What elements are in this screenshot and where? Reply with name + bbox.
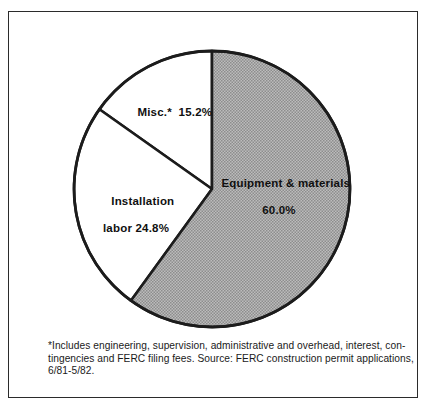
pie-label-equipment-materials: Equipment & materials 60.0%	[205, 163, 353, 244]
pie-label-equipment-line1: Equipment & materials	[221, 177, 350, 189]
footnote: *Includes engineering, supervision, admi…	[48, 340, 388, 378]
pie-label-misc-text: Misc.* 15.2%	[137, 106, 212, 118]
footnote-line-3: 6/81-5/82.	[48, 365, 388, 378]
footnote-line-1: *Includes engineering, supervision, admi…	[48, 340, 388, 353]
pie-chart-figure: Misc.* 15.2% Installation labor 24.8% Eq…	[0, 0, 433, 411]
pie-label-installation-labor: Installation labor 24.8%	[78, 181, 194, 262]
pie-label-equipment-line2: 60.0%	[205, 204, 353, 218]
footnote-line-2: tingencies and FERC filing fees. Source:…	[48, 353, 388, 366]
pie-label-misc: Misc.* 15.2%	[108, 92, 228, 133]
pie-label-installation-line2: labor 24.8%	[78, 222, 194, 236]
pie-label-installation-line1: Installation	[111, 195, 174, 207]
